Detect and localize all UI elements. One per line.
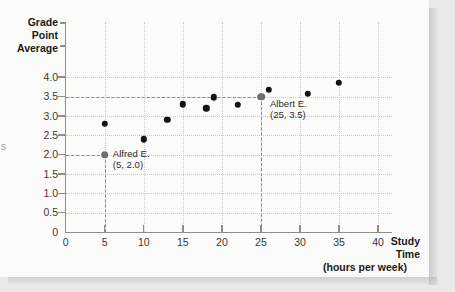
annotation-coords: (5, 2.0) [113,159,150,171]
gridline-x [339,22,340,232]
x-axis-title: Study Time (hours per week) [388,235,455,261]
x-tick-label: 40 [372,236,384,248]
data-point [180,101,186,107]
gridline-y [66,213,392,214]
data-point [336,80,342,86]
x-tick-label: 15 [177,236,189,248]
y-tick-label: 1.5 [43,168,58,180]
x-tick-label: 25 [255,236,267,248]
gridline-x [300,22,301,232]
annotation-name: Alfred E. [113,148,150,160]
y-tick-label: 0 [52,226,58,238]
y-axis-line [65,22,66,233]
card-shadow-bottom [8,277,437,285]
x-axis-units: (hours per week) [295,261,407,274]
guide-line-vertical [261,97,262,232]
gridline-x [378,22,379,232]
annotation-2: Albert E.(25, 3.5) [270,98,307,121]
gridline-y [66,116,392,117]
scatter-plot: Grade Point Average Study Time (hours pe… [0,0,429,277]
y-axis-title-line-1: Grade [0,16,58,29]
x-tick-label: 35 [333,236,345,248]
figure-page: s Grade Point Average Study Time (hours … [0,0,455,292]
x-tick-label: 30 [294,236,306,248]
data-point [164,117,170,123]
gridline-x [144,22,145,232]
annotation-1: Alfred E.(5, 2.0) [113,148,150,171]
data-point-highlighted [257,93,265,101]
data-point [102,120,108,126]
annotation-name: Albert E. [270,98,307,110]
x-tick-label: 20 [216,236,228,248]
gridline-y [66,193,392,194]
gridline-x [222,22,223,232]
x-tick-label: 0 [63,236,69,248]
y-tick-label: 3.5 [43,90,58,102]
data-point [234,102,240,108]
y-tick-label: 1.0 [43,187,58,199]
y-tick-label: 2.5 [43,129,58,141]
x-axis-line [65,232,392,233]
annotation-coords: (25, 3.5) [270,109,307,121]
gridline-x [183,22,184,232]
guide-line-vertical [105,155,106,232]
x-axis-title-line-2: Time [388,248,420,261]
x-axis-title-line-1: Study [388,235,420,248]
gridline-y [66,77,392,78]
y-tick-label: 0.5 [43,206,58,218]
x-tick-label: 10 [138,236,150,248]
guide-line-horizontal [66,155,105,156]
guide-line-horizontal [66,97,261,98]
data-point [211,94,217,100]
y-tick-label: 2.0 [43,148,58,160]
x-tick-label: 5 [102,236,108,248]
data-point [141,136,147,142]
y-axis-title-line-3: Average [0,42,58,55]
gridline-y [66,135,392,136]
y-axis-title: Grade Point Average [0,16,58,56]
y-tick-label: 4.0 [43,71,58,83]
y-axis-title-line-2: Point [0,29,58,42]
y-tick-label: 3.0 [43,110,58,122]
data-point [266,87,272,93]
data-point-highlighted [101,151,109,159]
data-point [203,105,209,111]
gridline-y [66,174,392,175]
